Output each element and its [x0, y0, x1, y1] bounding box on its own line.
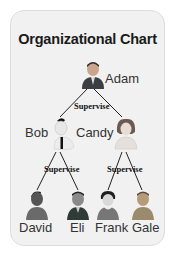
man-icon	[96, 190, 120, 220]
man-suit-icon	[66, 190, 90, 220]
node-label-gale: Gale	[132, 220, 159, 235]
man-icon	[25, 190, 49, 220]
businessman-icon	[81, 61, 105, 89]
node-label-frank: Frank	[95, 220, 128, 235]
edge-label-candy: Supervise	[107, 164, 142, 174]
edge-label-bob: Supervise	[44, 164, 79, 174]
node-label-candy: Candy	[76, 125, 114, 140]
node-label-eli: Eli	[70, 220, 84, 235]
edge-label-adam-bob-candy: Supervise	[74, 101, 109, 111]
woman-icon	[114, 118, 138, 150]
node-label-david: David	[19, 220, 52, 235]
man-icon	[131, 190, 155, 220]
node-label-adam: Adam	[105, 71, 139, 86]
man-tie-icon	[52, 117, 76, 151]
node-label-bob: Bob	[25, 125, 48, 140]
